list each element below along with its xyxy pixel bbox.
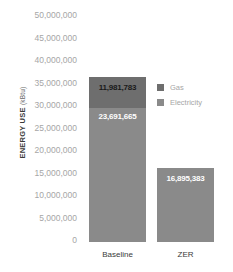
value-label-gas: 11,981,783 bbox=[89, 83, 146, 92]
bar-zer: 16,895,383 bbox=[157, 168, 214, 242]
x-tick-baseline: Baseline bbox=[89, 250, 146, 259]
bar-segment-gas: 11,981,783 bbox=[89, 77, 146, 108]
value-label-electricity: 23,691,665 bbox=[89, 112, 146, 121]
y-tick: 10,000,000 bbox=[34, 190, 77, 200]
y-tick: 5,000,000 bbox=[39, 213, 77, 223]
y-tick: 0 bbox=[72, 235, 77, 245]
legend-item-gas: Gas bbox=[157, 80, 202, 95]
bar-segment-electricity: 16,895,383 bbox=[157, 168, 214, 242]
y-tick: 20,000,000 bbox=[34, 145, 77, 155]
y-tick: 40,000,000 bbox=[34, 55, 77, 65]
y-tick: 30,000,000 bbox=[34, 100, 77, 110]
y-tick: 35,000,000 bbox=[34, 78, 77, 88]
y-tick: 15,000,000 bbox=[34, 168, 77, 178]
bar-segment-electricity: 23,691,665 bbox=[89, 108, 146, 242]
bar-baseline: 11,981,783 23,691,665 bbox=[89, 77, 146, 242]
x-tick-zer: ZER bbox=[157, 250, 214, 259]
value-label-electricity: 16,895,383 bbox=[157, 174, 214, 183]
y-tick: 25,000,000 bbox=[34, 123, 77, 133]
y-tick: 50,000,000 bbox=[34, 10, 77, 20]
legend: Gas Electricity bbox=[157, 80, 202, 110]
legend-swatch-icon bbox=[157, 84, 164, 91]
y-axis-label: ENERGY USE (kBtu) bbox=[18, 68, 27, 178]
legend-swatch-icon bbox=[157, 99, 164, 106]
y-tick: 45,000,000 bbox=[34, 33, 77, 43]
legend-item-electricity: Electricity bbox=[157, 95, 202, 110]
